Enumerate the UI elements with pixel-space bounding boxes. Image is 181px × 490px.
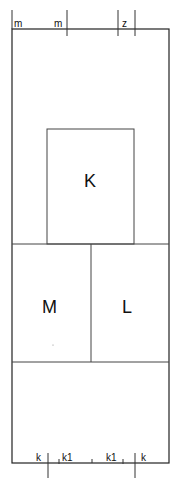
room-m-label: M: [42, 297, 57, 317]
label-k1-left: k1: [62, 452, 73, 463]
dot-mark: [52, 344, 53, 345]
label-m-left: m: [14, 18, 22, 29]
floor-plan-diagram: m m z K M L k k1 k1 k: [0, 0, 181, 490]
label-k1-right: k1: [106, 452, 117, 463]
label-k-right: k: [141, 452, 147, 463]
room-k-label: K: [84, 171, 96, 191]
label-k-left: k: [36, 452, 42, 463]
label-m-right: m: [54, 18, 62, 29]
room-l-label: L: [122, 297, 132, 317]
label-z: z: [122, 18, 127, 29]
